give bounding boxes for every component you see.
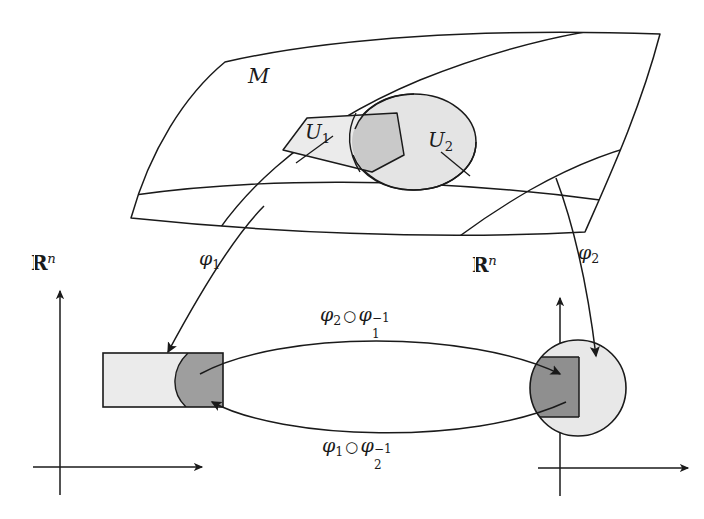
phi2-subscript: 2	[591, 251, 599, 266]
t1-first-symbol: φ	[320, 303, 333, 325]
t2-second-subscript: 2	[374, 459, 382, 471]
phi1-map-label: φ1	[199, 249, 220, 271]
rn-left-exponent: n	[47, 251, 56, 266]
rn-right-exponent: n	[488, 253, 497, 268]
transition-label-phi1-after-phi2-inverse: φ1○φ2−1	[322, 436, 374, 458]
rn-left-label: Rn	[31, 252, 56, 273]
t2-composition-operator: ○	[343, 438, 360, 456]
t2-second-symbol: φ	[361, 434, 374, 456]
rn-left-R-glyph: R	[31, 251, 47, 275]
t1-composition-operator: ○	[341, 307, 358, 325]
image-left-rectangle	[103, 353, 223, 407]
t2-second-superscript: −1	[374, 443, 392, 455]
t1-second-symbol: φ	[359, 303, 372, 325]
t1-second-superscript: −1	[372, 312, 390, 324]
u1-base-letter: U	[305, 120, 322, 144]
phi2-symbol: φ	[578, 241, 591, 263]
phi2-map-label: φ2	[578, 243, 599, 265]
left-rect-dark-fill	[175, 353, 223, 407]
rn-right-R-glyph: R	[472, 253, 488, 277]
phi1-subscript: 1	[212, 257, 220, 272]
transition-label-phi2-after-phi1-inverse: φ2○φ1−1	[320, 305, 372, 327]
t1-second-subscript: 1	[372, 328, 380, 340]
phi1-after-phi2-inverse-arrow	[212, 402, 566, 433]
u2-subscript: 2	[445, 139, 453, 154]
rn-right-label: Rn	[472, 254, 497, 275]
diagram-canvas: M U1 U2 Rn Rn φ1 φ2 φ2○φ1−1 φ1○φ2−1	[0, 0, 704, 519]
chart-label-u1: U1	[305, 122, 330, 145]
u2-base-letter: U	[428, 128, 445, 152]
t2-first-symbol: φ	[322, 434, 335, 456]
phi1-symbol: φ	[199, 247, 212, 269]
image-right-circle	[526, 340, 626, 436]
chart-label-u2: U2	[428, 130, 453, 153]
phi2-after-phi1-inverse-arrow	[200, 341, 560, 374]
manifold-label: M	[248, 66, 270, 87]
u1-subscript: 1	[322, 131, 330, 146]
left-rect-dark-region	[175, 353, 223, 407]
